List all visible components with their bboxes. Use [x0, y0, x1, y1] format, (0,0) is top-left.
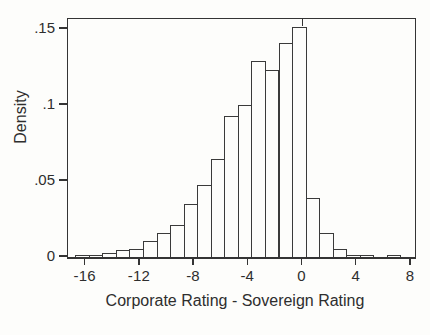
x-axis-tick — [301, 258, 303, 265]
plot-area — [67, 18, 416, 259]
x-tick-label: -8 — [173, 267, 213, 284]
histogram-bar — [333, 249, 348, 257]
histogram-bar — [224, 116, 239, 257]
histogram-bar — [292, 27, 307, 257]
histogram-bar — [319, 233, 334, 257]
y-tick-label: .15 — [19, 19, 55, 36]
x-tick-label: -12 — [119, 267, 159, 284]
x-axis-title: Corporate Rating - Sovereign Rating — [40, 292, 430, 310]
histogram-bar — [102, 253, 117, 257]
histogram-bar — [346, 255, 361, 258]
x-axis-tick — [355, 258, 357, 265]
x-tick-label: -16 — [65, 267, 105, 284]
histogram-bar — [143, 241, 158, 257]
histogram-bar — [211, 159, 226, 257]
x-axis-tick — [409, 258, 411, 265]
x-tick-label: 8 — [390, 267, 430, 284]
histogram-bar — [75, 255, 90, 258]
y-tick-label: .1 — [19, 95, 55, 112]
x-axis-tick — [84, 258, 86, 265]
histogram-bar — [279, 43, 294, 257]
x-tick-label: 4 — [336, 267, 376, 284]
histogram-bar — [116, 250, 131, 257]
histogram-bar — [360, 255, 375, 258]
x-tick-label: 0 — [282, 267, 322, 284]
histogram-bar — [238, 105, 253, 257]
y-tick-label: .05 — [19, 171, 55, 188]
y-axis-tick — [59, 103, 67, 105]
top-axis-tick — [302, 19, 304, 26]
histogram-bar — [197, 185, 212, 257]
x-tick-label: -4 — [227, 267, 267, 284]
histogram-bar — [129, 249, 144, 257]
y-axis-tick — [59, 255, 67, 257]
histogram-bar — [387, 255, 402, 258]
histogram-bar — [157, 233, 172, 257]
histogram-bar — [306, 198, 321, 257]
histogram-bar — [265, 70, 280, 257]
x-axis-tick — [192, 258, 194, 265]
histogram-figure: Density Corporate Rating - Sovereign Rat… — [0, 0, 430, 335]
histogram-bar — [184, 204, 199, 257]
y-tick-label: 0 — [19, 247, 55, 264]
histogram-bar — [170, 225, 185, 257]
histogram-bar — [89, 255, 104, 258]
x-axis-tick — [247, 258, 249, 265]
histogram-bar — [251, 61, 266, 257]
y-axis-tick — [59, 27, 67, 29]
x-axis-tick — [138, 258, 140, 265]
y-axis-tick — [59, 179, 67, 181]
